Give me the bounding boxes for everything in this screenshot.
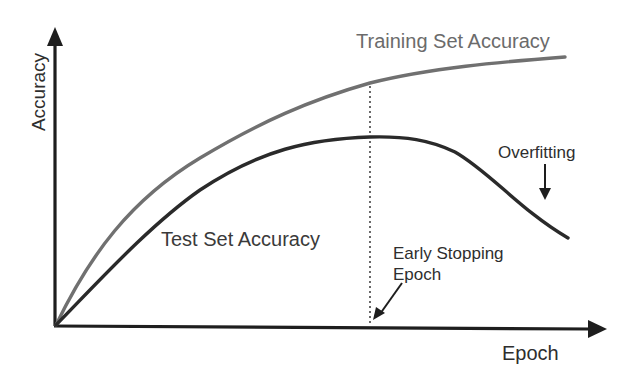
training-curve-label: Training Set Accuracy: [356, 31, 550, 51]
y-axis-arrowhead-icon: [47, 27, 63, 46]
x-axis-arrowhead-icon: [588, 320, 607, 338]
early-stopping-label: Early Stopping Epoch: [393, 243, 504, 285]
early-stopping-arrow-icon: [373, 283, 402, 320]
overfitting-label: Overfitting: [498, 144, 575, 161]
test-curve-label: Test Set Accuracy: [161, 229, 320, 249]
accuracy-vs-epoch-diagram: [0, 0, 631, 378]
x-axis-label: Epoch: [502, 343, 559, 363]
overfitting-arrow-icon: [539, 164, 551, 200]
early-stopping-label-line1: Early Stopping: [393, 243, 504, 264]
y-axis: [47, 27, 63, 326]
early-stopping-label-line2: Epoch: [393, 264, 504, 285]
x-axis: [54, 320, 607, 338]
y-axis-label: Accuracy: [29, 53, 48, 131]
